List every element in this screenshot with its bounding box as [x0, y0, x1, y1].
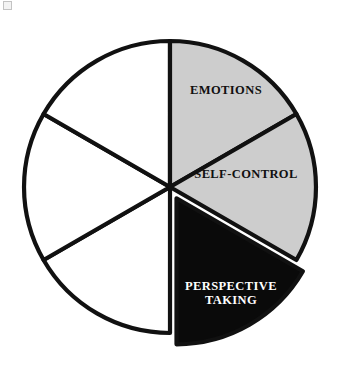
pie-chart-svg: [0, 0, 343, 371]
pie-diagram-figure: EMOTIONS SELF-CONTROL PERSPECTIVE TAKING: [0, 0, 343, 371]
